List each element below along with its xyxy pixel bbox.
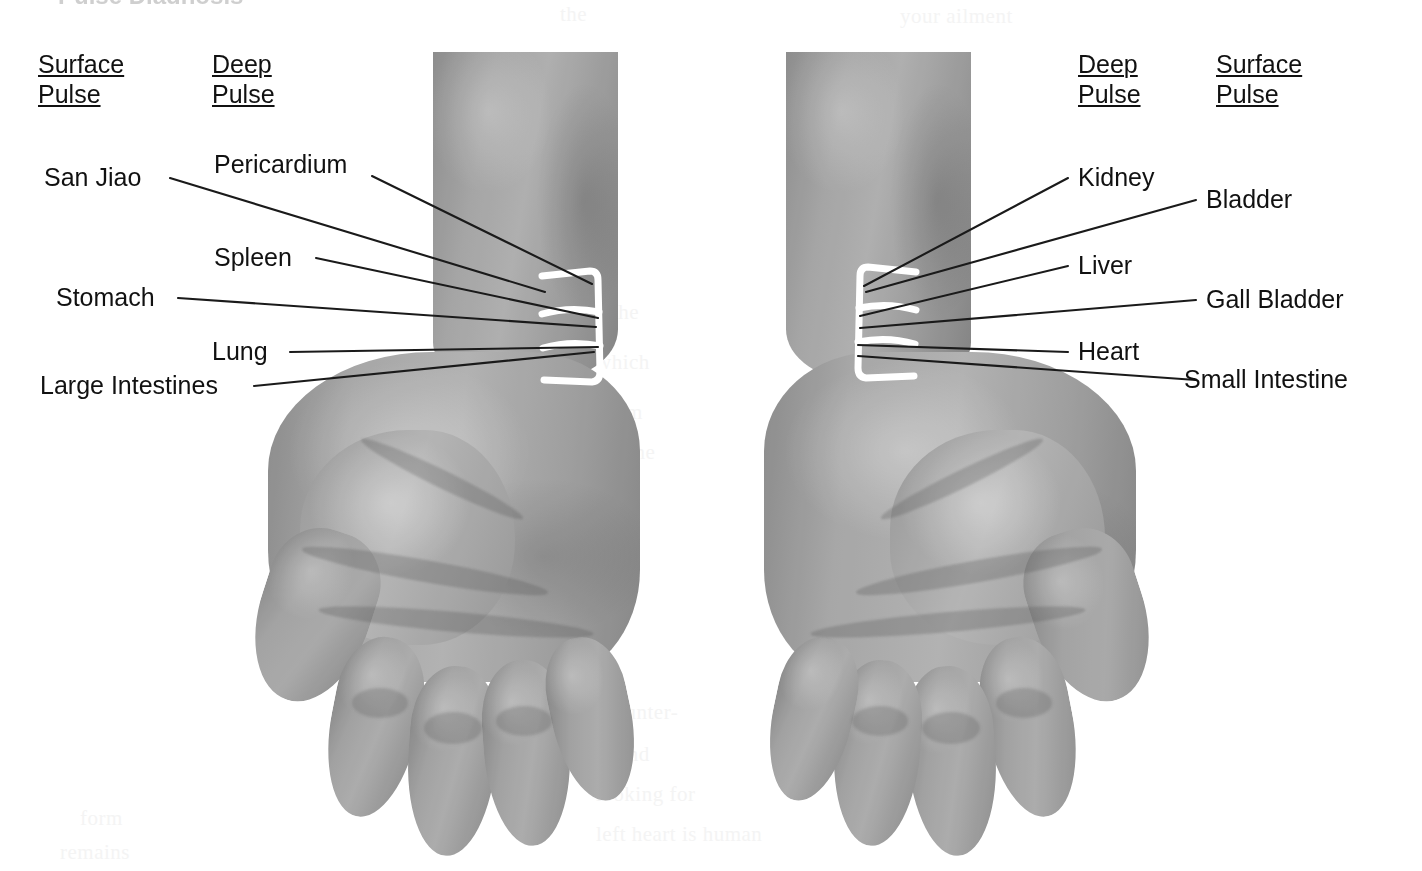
left-knuckle [352,688,408,718]
left-knuckle [424,712,482,744]
heading-line-2: Pulse [1078,80,1141,110]
left-knuckle [496,706,552,736]
heading-line-1: Surface [1216,50,1302,80]
heading-right-surface-pulse: Surface Pulse [1216,50,1302,109]
heading-line-1: Surface [38,50,124,80]
label-lung: Lung [212,337,268,365]
label-liver: Liver [1078,251,1132,279]
heading-line-2: Pulse [38,80,124,110]
label-gall-bladder: Gall Bladder [1206,285,1344,313]
figure-title: Pulse Diagnosis [58,0,378,4]
label-heart: Heart [1078,337,1139,365]
label-stomach: Stomach [56,283,155,311]
right-knuckle [922,712,980,744]
left-wrist-pulse-bracket [528,262,618,390]
right-knuckle [852,706,908,736]
label-large-intestines: Large Intestines [40,371,218,399]
label-bladder: Bladder [1206,185,1292,213]
heading-line-1: Deep [212,50,275,80]
right-knuckle [996,688,1052,718]
heading-right-deep-pulse: Deep Pulse [1078,50,1141,109]
label-kidney: Kidney [1078,163,1154,191]
hands-photograph [0,0,1422,871]
label-small-intestine: Small Intestine [1184,365,1348,393]
heading-left-surface-pulse: Surface Pulse [38,50,124,109]
label-pericardium: Pericardium [214,150,347,178]
label-san-jiao: San Jiao [44,163,141,191]
right-wrist-pulse-bracket [840,258,930,386]
figure-root: the your ailment the which form of the C… [0,0,1422,871]
heading-line-2: Pulse [1216,80,1302,110]
heading-left-deep-pulse: Deep Pulse [212,50,275,109]
heading-line-1: Deep [1078,50,1141,80]
heading-line-2: Pulse [212,80,275,110]
label-spleen: Spleen [214,243,292,271]
